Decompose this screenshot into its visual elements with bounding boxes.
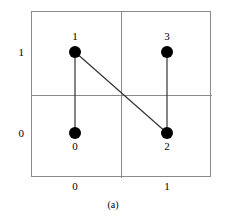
y-tick-label-1: 1	[6, 47, 24, 58]
node-label-2: 2	[157, 141, 177, 152]
node-3	[161, 46, 173, 58]
edge-1-2	[75, 52, 167, 133]
figure-panel: 1 3 0 2 1 0 0 1 (a)	[0, 0, 226, 221]
graph-layer	[0, 0, 226, 221]
node-1	[69, 46, 81, 58]
node-2	[161, 127, 173, 139]
edge-group	[75, 52, 167, 133]
node-label-0: 0	[65, 141, 85, 152]
node-0	[69, 127, 81, 139]
node-label-3: 3	[157, 31, 177, 42]
figure-caption: (a)	[0, 199, 226, 211]
y-tick-label-0: 0	[6, 128, 24, 139]
x-tick-label-1: 1	[157, 181, 177, 192]
node-label-1: 1	[65, 31, 85, 42]
x-tick-label-0: 0	[65, 181, 85, 192]
